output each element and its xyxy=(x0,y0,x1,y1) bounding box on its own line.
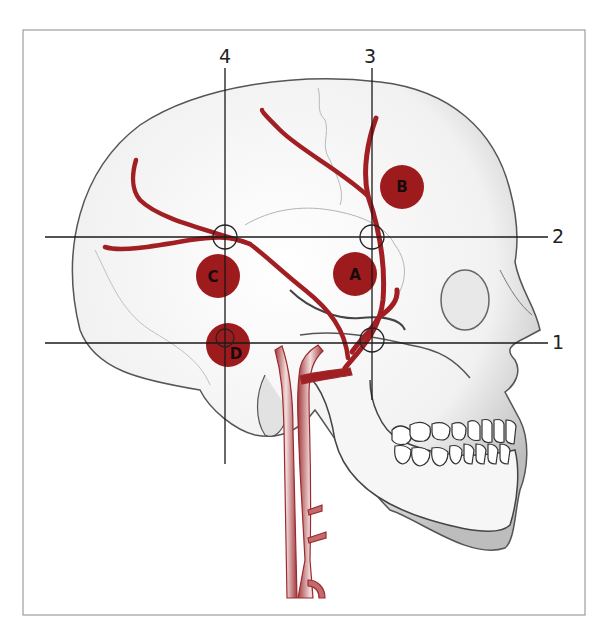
skull-diagram: A B C D 4 3 2 1 xyxy=(0,0,604,635)
marker-A: A xyxy=(333,252,377,296)
svg-text:A: A xyxy=(349,266,361,284)
marker-B: B xyxy=(380,165,424,209)
marker-C: C xyxy=(196,254,240,298)
svg-text:B: B xyxy=(396,178,407,196)
label-line-4: 4 xyxy=(219,45,231,67)
orbit xyxy=(441,270,489,330)
label-line-3: 3 xyxy=(364,45,376,67)
svg-text:C: C xyxy=(207,268,218,286)
label-line-2: 2 xyxy=(552,225,564,247)
svg-text:D: D xyxy=(230,345,242,363)
label-line-1: 1 xyxy=(552,331,564,353)
